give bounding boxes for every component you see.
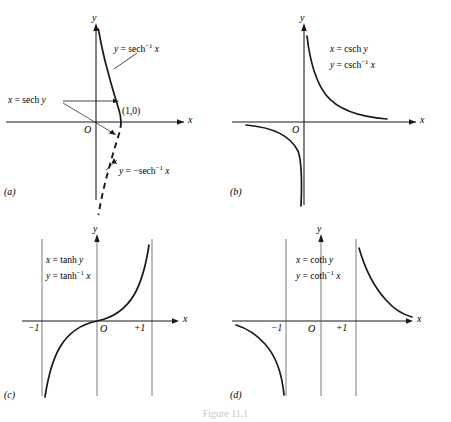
y-axis-arrowhead [301,23,306,31]
panel-d: y x O −1 +1 x = coth y y = coth−1 x (d) [226,211,451,422]
figure-container: y x O y = sech−1 x x = sech y (1,0) y = … [0,0,451,422]
leader-arrowhead-relation-secondary [109,130,116,135]
figure-caption: Figure 11.1 [0,408,451,419]
x-axis-label: x [420,114,424,125]
label-y-equals-tanh-inverse-x: y = tanh−1 x [46,269,91,283]
panel-b-plot [226,0,451,211]
label-x-equals-coth-y: x = coth y [296,255,333,267]
origin-label: O [308,323,315,334]
y-axis-label: y [300,12,304,23]
tick-label-positive-one: +1 [336,323,347,333]
label-y-equals-sech-inverse-x: y = sech−1 x [114,42,159,56]
label-y-equals-csch-inverse-x: y = csch−1 x [330,58,375,72]
y-axis-label: y [92,12,96,23]
origin-label: O [84,124,91,135]
y-axis-arrowhead [318,234,323,242]
panel-c: y x O −1 +1 x = tanh y y = tanh−1 x (c) [0,211,225,422]
origin-label: O [100,323,107,334]
panel-a: y x O y = sech−1 x x = sech y (1,0) y = … [0,0,225,211]
x-axis-label: x [183,313,187,324]
label-x-equals-tanh-y: x = tanh y [46,255,83,267]
panel-letter-c: (c) [4,389,15,400]
label-x-equals-sech-y: x = sech y [8,95,46,107]
tick-label-negative-one: −1 [28,323,39,333]
label-y-equals-coth-inverse-x: y = coth−1 x [296,269,341,283]
x-axis-arrowhead [409,119,416,124]
tick-label-negative-one: −1 [271,323,282,333]
origin-label: O [292,124,299,135]
panel-c-plot [0,211,225,422]
tick-label-positive-one: +1 [134,323,145,333]
label-y-equals-negative-sech-inverse-x: y = −sech−1 x [119,164,169,178]
x-axis-arrowhead [172,318,179,323]
y-axis-arrowhead [94,234,99,242]
y-axis-label: y [93,223,97,234]
curve-sech-inverse-negative [98,122,121,215]
x-axis-label: x [417,313,421,324]
panel-letter-a: (a) [4,186,16,197]
panel-letter-b: (b) [230,186,242,197]
x-axis-label: x [188,114,192,125]
curve-csch-inverse-negative [246,125,302,206]
panel-b: y x O x = csch y y = csch−1 x (b) [226,0,451,211]
x-axis-arrowhead [406,318,413,323]
curve-coth-inverse-right [359,248,412,317]
curve-coth-inverse-left [236,325,284,395]
y-axis-label: y [317,223,321,234]
label-x-equals-csch-y: x = csch y [330,44,368,56]
label-point-1-0: (1,0) [122,106,140,118]
x-axis-arrowhead [177,119,184,124]
panel-letter-d: (d) [230,389,242,400]
